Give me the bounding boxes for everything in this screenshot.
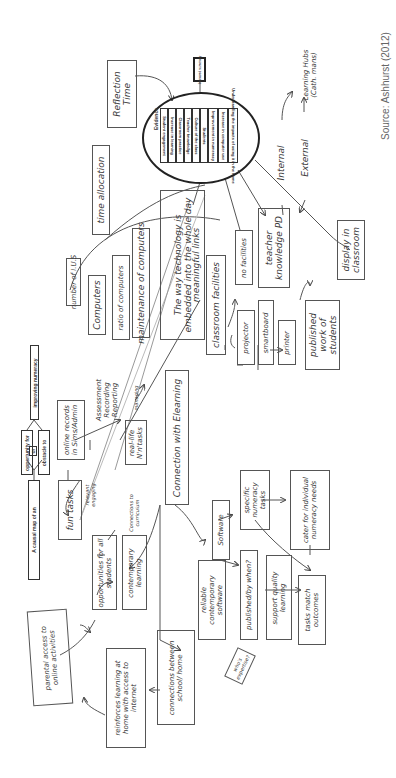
node-reinforces: reinforces learning at home with access … — [106, 648, 146, 748]
node-relevant-engaging: relevant engaging — [80, 465, 100, 525]
node-published-when: published/by when? — [240, 550, 258, 640]
evidence-item: Improvement in numeracy — [208, 108, 218, 163]
legend-or: or — [29, 446, 37, 456]
node-support-quality: support quality learning — [266, 555, 292, 640]
evidence-item: Classroom practice — [176, 108, 184, 163]
node-computers: Computers — [88, 275, 106, 335]
node-cater-needs: cater for individual numeracy needs — [290, 470, 330, 550]
node-connections-curriculum: Connections to curriculum — [120, 488, 148, 538]
node-internal: Internal — [272, 125, 290, 200]
node-display-classroom: display in classroom — [337, 220, 365, 280]
node-maintenance: maintenance of computers — [132, 228, 150, 338]
evidence-item: Increase in learning — [168, 108, 176, 163]
node-meaningful-links: meaningful links — [188, 200, 204, 330]
node-published-work: published work of students — [305, 300, 340, 370]
legend-obstacle: obstacle to — [38, 430, 50, 475]
node-external: External — [296, 120, 314, 195]
node-learning-hubs: Learning Hubs (Cath. mans) — [295, 40, 325, 110]
node-connection-elearning: Connection with Elearning — [165, 370, 189, 505]
node-contemporary: contemporary learning — [122, 535, 147, 610]
node-printer: printer — [278, 320, 296, 365]
evidence-item: Understanding the impacts of using it in… — [228, 108, 238, 163]
node-no-facilities: no facilities — [235, 230, 253, 285]
node-school-home: connections between school/ home — [157, 630, 195, 725]
outcome-box: Improved numeracy — [193, 57, 206, 82]
evidence-item: Student engagement — [160, 108, 168, 163]
evidence-item: Culture of the class — [192, 108, 200, 163]
node-online-records: online records in Sims/Admin — [57, 400, 85, 460]
legend-improving: improving numeracy — [30, 345, 39, 420]
node-whos-expertise: who's expertise? — [224, 647, 256, 684]
source-caption: Source: Ashhurst (2012) — [380, 32, 391, 140]
evidence-item: Students — [200, 108, 208, 163]
causal-map-diagram: Source: Ashhurst (2012) A causal map of … — [0, 0, 396, 778]
node-reflection-time: Reflection Time — [107, 60, 137, 128]
evidence-item: Increase in computer use — [218, 108, 228, 163]
node-software: Software — [212, 500, 230, 560]
node-fun-tasks: fun tasks — [58, 480, 82, 540]
node-ratio: ratio of computers — [112, 255, 130, 340]
node-ius: number of I.U.S — [66, 258, 81, 306]
node-managing: managing — [130, 375, 142, 420]
evidence-list: Student engagement Increase in learning … — [160, 108, 240, 163]
evidence-title: Evidence — [153, 108, 159, 130]
node-teacher-knowledge: teacher knowledge PD — [258, 208, 290, 288]
node-projector: projector — [237, 310, 255, 365]
node-time-allocation: time allocation — [92, 145, 110, 235]
node-specific-tasks: specific numeracy tasks — [240, 470, 270, 530]
evidence-item: Teacher knowledge — [184, 108, 192, 163]
node-real-life: real-life N'n'tasks — [125, 420, 147, 465]
node-reliable-software: reliable contemporary software — [198, 560, 226, 640]
node-assessment: Assessment Recording Reporting — [92, 370, 122, 430]
node-opportunities: opportunities for all students — [92, 535, 117, 610]
node-classroom-facilities: classroom facilities — [206, 255, 226, 355]
node-parental-access: parental access to online activities — [27, 609, 74, 707]
node-smartboard: smartboard — [258, 300, 274, 365]
node-tasks-outcomes: tasks match outcomes — [298, 575, 326, 645]
legend-causal-map: A causal map of an — [28, 480, 40, 580]
